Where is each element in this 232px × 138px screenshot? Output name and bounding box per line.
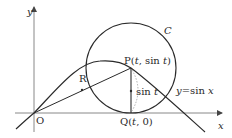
circle-c-label: C xyxy=(164,25,172,36)
point-q-label: Q(t, 0) xyxy=(120,116,153,127)
point-p-label: P(t, sin t) xyxy=(124,55,171,66)
diagram-canvas: y x O C R P(t, sin t) sin t Q(t, 0) y=si… xyxy=(0,0,232,138)
curve-label: y=sin x xyxy=(175,85,214,96)
midpoint-tick-pq xyxy=(130,90,132,92)
sin-t-label: sin t xyxy=(136,86,159,97)
y-axis-label: y xyxy=(26,6,33,17)
midpoint-tick-op xyxy=(81,89,83,91)
sine-curve xyxy=(16,61,205,132)
origin-label: O xyxy=(36,115,44,126)
x-axis-label: x xyxy=(218,120,224,131)
point-r-label: R xyxy=(79,73,87,84)
